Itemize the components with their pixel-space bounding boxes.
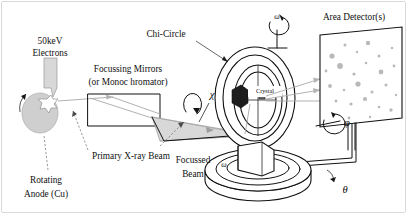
detector-spot xyxy=(378,55,381,58)
detector-spot xyxy=(352,72,355,75)
mirrors-label-line1: Focussing Mirrors xyxy=(94,64,163,74)
detector-spot xyxy=(371,91,374,94)
chi-axis-arrow xyxy=(184,93,209,122)
detector-spot xyxy=(343,89,346,92)
goniometer-base: ω xyxy=(205,142,311,201)
detector-spot xyxy=(393,65,396,68)
omega-base-symbol: ω xyxy=(221,160,227,169)
detector-spot xyxy=(329,53,334,58)
chi-symbol: χ xyxy=(209,89,215,100)
leader-rotating-anode xyxy=(44,136,48,170)
chi-arrowhead xyxy=(193,108,200,114)
chi-axis-line xyxy=(199,103,209,122)
primary-xray-beam xyxy=(58,95,113,102)
primary-beam-arrowhead xyxy=(106,95,113,100)
diagram-canvas: ω Crystal xyxy=(0,0,407,215)
detector-spot xyxy=(355,81,360,86)
electrons-label-line2: Electrons xyxy=(32,48,67,58)
detector-spot xyxy=(325,70,328,73)
detector-spot xyxy=(363,97,367,101)
detector-spot xyxy=(337,63,343,69)
detector-spot xyxy=(356,51,358,53)
focussed-beam-label-line2: Beam xyxy=(182,169,204,179)
crystal-label: Crystal xyxy=(256,87,274,94)
theta-symbol: θ xyxy=(342,184,347,195)
rotating-anode-label-line2: Anode (Cu) xyxy=(24,189,68,200)
detector-spot xyxy=(344,44,347,47)
detector-spot xyxy=(366,41,370,45)
omega-top-symbol: ω xyxy=(274,12,280,21)
omega-axis-top: ω xyxy=(268,12,289,48)
detector-spot xyxy=(328,84,332,88)
detector-spot xyxy=(379,70,384,75)
area-detector-label: Area Detector(s) xyxy=(323,12,385,23)
chi-circle xyxy=(215,47,295,149)
chi-circle-label: Chi-Circle xyxy=(146,29,185,39)
diagram-figure: ω Crystal xyxy=(0,0,407,215)
detector-spot xyxy=(378,106,381,109)
detector-spot xyxy=(349,102,352,105)
leader-primary-beam xyxy=(73,111,88,150)
detector-spot xyxy=(365,62,368,65)
detector-spot xyxy=(391,47,394,50)
theta-axis-arrow: θ xyxy=(327,170,348,195)
phi-symbol: φ xyxy=(344,117,350,128)
electrons-label-line1: 50keV xyxy=(38,36,63,46)
detector-spot xyxy=(369,116,371,118)
detector-spot xyxy=(335,100,338,103)
area-detector xyxy=(320,27,402,150)
primary-beam-label: Primary X-ray Beam xyxy=(92,151,171,161)
detector-spot xyxy=(385,84,388,87)
electron-beam xyxy=(44,58,57,97)
detector-spot xyxy=(389,108,392,111)
rotating-anode-label-line1: Rotating xyxy=(30,175,62,185)
detector-spot xyxy=(395,94,397,96)
omega-top-arrowhead xyxy=(279,14,284,21)
focussed-beam-label-line1: Focussed xyxy=(176,155,211,165)
focussing-mirrors xyxy=(88,94,160,126)
rotating-anode xyxy=(20,93,58,133)
mirrors-label-line2: (or Monoc hromator) xyxy=(88,77,167,88)
